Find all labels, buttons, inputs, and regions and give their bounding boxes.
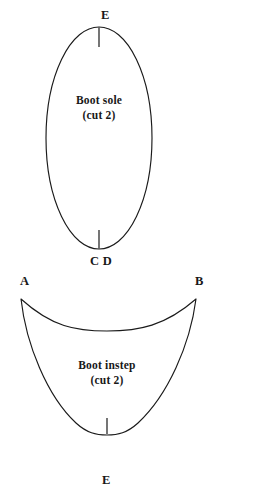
boot-instep-caption: Boot instep (cut 2) bbox=[57, 358, 157, 387]
boot-sole-caption-quantity: (cut 2) bbox=[49, 108, 149, 123]
boot-instep-marker-e-bottom: E bbox=[102, 474, 111, 487]
boot-sole-caption-title: Boot sole bbox=[49, 93, 149, 108]
boot-instep-marker-b: B bbox=[195, 275, 204, 288]
boot-instep-caption-quantity: (cut 2) bbox=[57, 373, 157, 388]
pattern-sheet: E Boot sole (cut 2) C D A B Boot instep … bbox=[0, 0, 255, 499]
boot-instep-marker-a: A bbox=[20, 275, 29, 288]
boot-sole-caption: Boot sole (cut 2) bbox=[49, 93, 149, 122]
boot-sole-marker-cd-bottom: C D bbox=[90, 255, 112, 268]
boot-instep-caption-title: Boot instep bbox=[57, 358, 157, 373]
boot-sole-outline bbox=[46, 27, 152, 249]
pattern-diagram bbox=[0, 0, 255, 499]
boot-sole-marker-e-top: E bbox=[101, 9, 110, 22]
